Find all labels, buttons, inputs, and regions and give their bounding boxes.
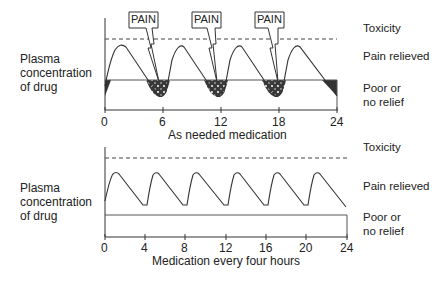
bottom-tick-0: 0 [101, 241, 108, 255]
top-tick-12: 12 [214, 115, 227, 129]
top-zone-poor-2: no relief [363, 96, 404, 109]
top-x-caption: As needed medication [168, 128, 287, 142]
bottom-zone-pain-relieved: Pain relieved [363, 180, 429, 193]
bottom-zone-poor-2: no relief [363, 225, 404, 238]
bottom-tick-24: 24 [340, 241, 353, 255]
top-y-axis-label: Plasma concentration of drug [20, 52, 92, 94]
bottom-zone-poor-1: Poor or [363, 211, 401, 224]
bottom-x-caption: Medication every four hours [152, 254, 300, 268]
pain-label-1: PAIN [131, 13, 156, 25]
top-zone-toxicity: Toxicity [363, 22, 401, 35]
top-zone-poor-1: Poor or [363, 82, 401, 95]
bottom-tick-8: 8 [181, 241, 188, 255]
bottom-y-axis-label: Plasma concentration of drug [20, 181, 92, 223]
bottom-zone-toxicity: Toxicity [363, 141, 401, 154]
bottom-tick-12: 12 [219, 241, 232, 255]
top-tick-18: 18 [272, 115, 285, 129]
top-zone-pain-relieved: Pain relieved [363, 50, 429, 63]
top-chart [105, 12, 338, 113]
bottom-tick-16: 16 [259, 241, 272, 255]
top-tick-24: 24 [330, 115, 343, 129]
pain-label-3: PAIN [257, 13, 282, 25]
bottom-chart [105, 147, 348, 240]
bottom-tick-20: 20 [299, 241, 312, 255]
bottom-tick-4: 4 [141, 241, 148, 255]
top-tick-6: 6 [159, 115, 166, 129]
pain-label-2: PAIN [194, 13, 219, 25]
top-tick-0: 0 [101, 115, 108, 129]
